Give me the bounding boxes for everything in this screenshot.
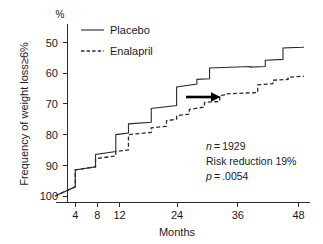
legend-label-enalapril: Enalapril	[110, 45, 153, 57]
y-axis-title: Frequency of weight loss≥6%	[18, 42, 30, 186]
y-tick-label-60: 60	[46, 67, 58, 79]
chart-canvas: 50 60 70 80 90 100 4 8 12 24 36 48 Month…	[0, 0, 323, 244]
x-axis-title: Months	[159, 226, 196, 238]
y-tick-label-90: 90	[46, 160, 58, 172]
annotation-n-rest: = 1929	[212, 140, 246, 152]
chart-figure: 50 60 70 80 90 100 4 8 12 24 36 48 Month…	[0, 0, 323, 244]
y-tick-label-70: 70	[46, 98, 58, 110]
y-axis-unit-label: %	[56, 9, 65, 20]
annotation-p-value: p = .0054	[205, 170, 249, 182]
x-tick-label-12: 12	[113, 209, 125, 221]
legend-label-placebo: Placebo	[110, 24, 150, 36]
series-line-enalapril	[55, 76, 303, 196]
annotation-p-rest: = .0054	[212, 170, 249, 182]
annotation-n-value: n = 1929	[206, 140, 246, 152]
x-tick-label-48: 48	[292, 209, 304, 221]
x-axis	[56, 203, 310, 208]
x-tick-label-36: 36	[232, 209, 244, 221]
x-tick-label-4: 4	[72, 209, 78, 221]
stats-annotation: n = 1929 Risk reduction 19% p = .0054	[205, 140, 296, 182]
x-tick-label-24: 24	[171, 209, 183, 221]
risk-gap-arrow	[186, 92, 221, 102]
annotation-risk-reduction: Risk reduction 19%	[206, 155, 296, 167]
y-tick-label-50: 50	[46, 37, 58, 49]
series-line-placebo	[55, 46, 303, 196]
y-axis	[63, 24, 68, 203]
x-tick-label-8: 8	[94, 209, 100, 221]
y-tick-label-80: 80	[46, 129, 58, 141]
chart-legend: Placebo Enalapril	[81, 24, 153, 57]
